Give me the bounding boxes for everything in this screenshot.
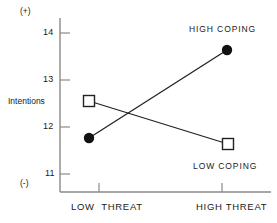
data-point-high-coping-high-threat	[222, 45, 232, 55]
data-point-high-coping-low-threat	[84, 133, 94, 143]
chart-figure: (+) (-) 14 13 12 11 Intentions HIGH COPI…	[0, 0, 277, 223]
y-tick-label-14: 14	[43, 28, 53, 37]
axis-negative-marker: (-)	[20, 179, 29, 188]
series-line-low-coping	[89, 101, 228, 144]
x-category-label-low-threat: LOW THREAT	[71, 202, 143, 212]
series-label-low-coping: LOW COPING	[193, 162, 257, 171]
y-tick-label-11: 11	[45, 169, 55, 178]
data-point-low-coping-low-threat	[84, 96, 95, 107]
y-axis-title: Intentions	[8, 97, 45, 106]
y-tick-label-12: 12	[43, 122, 53, 131]
axis-positive-marker: (+)	[20, 7, 31, 16]
series-line-high-coping	[89, 50, 227, 138]
x-category-label-high-threat: HIGH THREAT	[196, 202, 267, 212]
y-tick-label-13: 13	[43, 75, 53, 84]
series-label-high-coping: HIGH COPING	[189, 25, 256, 34]
data-point-low-coping-high-threat	[223, 139, 234, 150]
